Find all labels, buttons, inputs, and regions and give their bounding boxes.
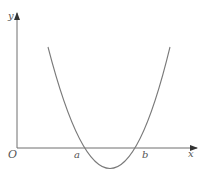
- root-a-label: a: [74, 149, 80, 160]
- y-axis-label: y: [7, 10, 14, 21]
- origin-label: O: [8, 148, 17, 161]
- parabola-curve: [48, 47, 170, 169]
- parabola-figure: y x O a b: [0, 0, 212, 192]
- root-b-label: b: [142, 149, 148, 160]
- x-axis-label: x: [188, 148, 194, 159]
